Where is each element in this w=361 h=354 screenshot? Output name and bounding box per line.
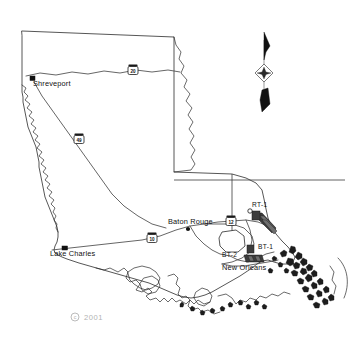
compass-south-tail xyxy=(260,88,270,112)
mississippi-river-boundary xyxy=(174,37,195,172)
map-figure: Shreveport Baton Rouge Lake Charles New … xyxy=(0,0,361,354)
highway-shield-i10: 10 xyxy=(147,233,157,243)
compass-center-dot xyxy=(263,72,265,74)
highway-shield-i20: 20 xyxy=(128,65,138,75)
copyright-notice: c 2001 xyxy=(71,313,103,322)
compass-north-head xyxy=(264,32,270,60)
city-label-lake-charles: Lake Charles xyxy=(50,249,96,258)
city-label-new-orleans: New Orleans xyxy=(222,263,267,272)
shield-i10-number: 10 xyxy=(149,237,155,242)
city-label-baton-rouge: Baton Rouge xyxy=(168,217,213,226)
shield-i20-number: 20 xyxy=(130,69,136,74)
site-symbol-rt1 xyxy=(248,209,252,213)
delta-passes xyxy=(330,266,336,294)
transect-bt1-block xyxy=(247,245,254,253)
copyright-c-glyph: c xyxy=(74,314,77,320)
transect-rt1-block xyxy=(252,211,260,220)
city-label-shreveport: Shreveport xyxy=(33,79,71,88)
louisiana-map-canvas: Shreveport Baton Rouge Lake Charles New … xyxy=(0,0,361,354)
highway-shield-i12: 12 xyxy=(226,216,236,226)
site-label-bt1: BT-1 xyxy=(258,243,273,250)
highway-shield-i49: 49 xyxy=(74,134,84,144)
site-label-rt1: RT-1 xyxy=(252,201,267,208)
site-label-bt2: BT-2 xyxy=(222,251,237,258)
shield-i49-number: 49 xyxy=(76,138,82,143)
city-marker-baton-rouge xyxy=(186,227,190,231)
north-arrow-compass xyxy=(255,32,273,112)
shield-i12-number: 12 xyxy=(228,220,234,225)
birdfoot-delta-arc xyxy=(338,258,347,298)
copyright-year: 2001 xyxy=(84,313,103,322)
